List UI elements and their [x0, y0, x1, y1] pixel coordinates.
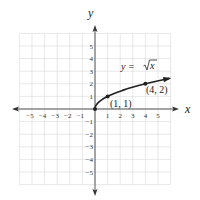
x-tick-label: 5 [156, 112, 160, 120]
equation-prefix: y = [120, 61, 135, 72]
curve-arrow-icon [163, 77, 171, 82]
x-tick-label: −1 [77, 112, 85, 120]
y-tick-label: −1 [86, 118, 94, 126]
x-tick-label: −5 [26, 112, 34, 120]
y-tick-label: 2 [90, 80, 94, 88]
y-tick-label: 3 [90, 68, 94, 76]
y-tick-label: −5 [86, 169, 94, 177]
equation-label: y = x [120, 60, 157, 72]
x-tick-label: 2 [118, 112, 122, 120]
y-tick-label: 5 [90, 43, 94, 51]
x-tick-label: −2 [64, 112, 72, 120]
x-tick-label: 4 [144, 112, 148, 120]
y-tick-label: −3 [86, 143, 94, 151]
y-tick-label: −4 [86, 156, 94, 164]
equation-radicand: x [149, 60, 155, 71]
y-axis-label: y [87, 6, 94, 20]
svg-text:y =: y = [120, 61, 135, 72]
data-point [93, 107, 97, 111]
y-tick-label: −2 [86, 131, 94, 139]
point-label-4-2: (4, 2) [146, 84, 168, 96]
x-tick-label: −4 [39, 112, 47, 120]
point-label-1-1: (1, 1) [110, 98, 132, 110]
x-axis-label: x [184, 102, 191, 116]
x-tick-label: −3 [51, 112, 59, 120]
y-tick-label: 4 [90, 55, 94, 63]
data-point [106, 94, 110, 98]
x-tick-label: 3 [131, 112, 135, 120]
y-tick-label: 1 [90, 93, 94, 101]
sqrt-function-graph: −5−4−3−2−112345−5−4−3−2−112345 x y y = x… [0, 0, 200, 200]
x-tick-label: 1 [106, 112, 110, 120]
